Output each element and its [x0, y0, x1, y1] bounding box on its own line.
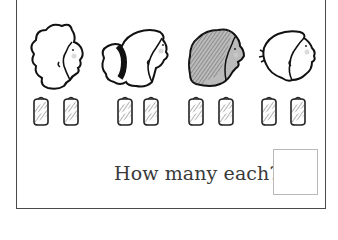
can — [118, 98, 132, 126]
can — [64, 98, 78, 126]
can-group-1 — [34, 98, 78, 126]
can — [34, 98, 48, 126]
can — [219, 98, 233, 126]
child-head-2 — [102, 30, 167, 87]
can-group-4 — [262, 98, 305, 126]
child-head-1 — [31, 25, 82, 89]
can-group-3 — [189, 98, 233, 126]
child-head-4 — [259, 31, 315, 80]
can — [291, 98, 305, 126]
answer-box[interactable] — [273, 149, 318, 195]
can — [262, 98, 276, 126]
question-text: How many each? — [114, 162, 280, 184]
can — [189, 98, 203, 126]
child-head-3 — [189, 29, 244, 86]
can-group-2 — [118, 98, 158, 126]
can — [144, 98, 158, 126]
